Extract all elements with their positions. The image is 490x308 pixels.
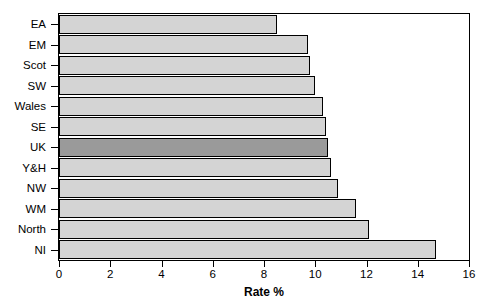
y-axis-tick <box>51 86 58 87</box>
bar-north <box>59 220 369 239</box>
y-axis-tick <box>51 209 58 210</box>
bar-row <box>59 158 469 177</box>
bar-scot <box>59 56 310 75</box>
y-axis-label: UK <box>30 140 46 154</box>
y-axis-tick <box>51 168 58 169</box>
bar-row <box>59 138 469 157</box>
bar-row <box>59 199 469 218</box>
plot-area <box>58 13 470 261</box>
bar-row <box>59 179 469 198</box>
y-axis-tick <box>51 147 58 148</box>
x-axis-tick-label: 8 <box>249 266 279 282</box>
x-axis-tick-label: 4 <box>147 266 177 282</box>
bar-y-h <box>59 158 331 177</box>
x-axis-tick-label: 16 <box>454 266 484 282</box>
x-axis-tick-label: 6 <box>198 266 228 282</box>
bar-ni <box>59 240 436 259</box>
x-axis-tick-label: 14 <box>403 266 433 282</box>
bar-em <box>59 35 308 54</box>
bar-row <box>59 117 469 136</box>
bar-chart: EAEMScotSWWalesSEUKY&HNWWMNorthNI 024681… <box>0 0 490 308</box>
x-axis-title: Rate % <box>58 285 470 299</box>
y-axis-tick <box>51 127 58 128</box>
bar-wales <box>59 97 323 116</box>
y-axis-tick <box>51 24 58 25</box>
bar-nw <box>59 179 338 198</box>
bar-row <box>59 97 469 116</box>
bar-row <box>59 76 469 95</box>
bar-row <box>59 220 469 239</box>
x-axis-tick-label: 12 <box>352 266 382 282</box>
x-axis-tick-label: 10 <box>300 266 330 282</box>
y-axis-label: EM <box>29 38 46 52</box>
bar-uk <box>59 138 328 157</box>
y-axis-label: North <box>18 222 46 236</box>
y-axis-label: NI <box>35 243 47 257</box>
bars-layer <box>59 14 469 260</box>
y-axis-label: Y&H <box>22 161 46 175</box>
bar-sw <box>59 76 315 95</box>
y-axis-label: SW <box>27 79 46 93</box>
y-axis-label: Wales <box>14 99 46 113</box>
bar-ea <box>59 15 277 34</box>
y-axis-label: SE <box>31 120 46 134</box>
x-axis-tick-label: 2 <box>95 266 125 282</box>
y-axis-tick <box>51 250 58 251</box>
x-axis-tick-label: 0 <box>44 266 74 282</box>
y-axis-tick <box>51 106 58 107</box>
y-axis-label: NW <box>27 181 46 195</box>
bar-wm <box>59 199 356 218</box>
y-axis-label: EA <box>31 17 46 31</box>
bar-se <box>59 117 326 136</box>
y-axis-tick <box>51 229 58 230</box>
y-axis-tick <box>51 188 58 189</box>
bar-row <box>59 56 469 75</box>
bar-row <box>59 240 469 259</box>
y-axis-label: WM <box>26 202 46 216</box>
bar-row <box>59 35 469 54</box>
y-axis-tick <box>51 45 58 46</box>
bar-row <box>59 15 469 34</box>
y-axis-category-labels: EAEMScotSWWalesSEUKY&HNWWMNorthNI <box>0 13 58 261</box>
x-axis-tick-labels: 0246810121416 <box>58 266 470 282</box>
y-axis-label: Scot <box>23 58 46 72</box>
y-axis-tick <box>51 65 58 66</box>
